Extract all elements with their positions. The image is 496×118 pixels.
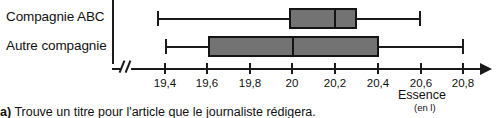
- axis-tick: [420, 63, 422, 74]
- horizontal-axis-line: [131, 68, 483, 70]
- axis-tick-label: 20,4: [367, 77, 389, 89]
- axis-tick: [334, 63, 336, 74]
- median-line: [292, 36, 294, 57]
- axis-tick: [462, 63, 464, 74]
- axis-break-slash-2: [125, 60, 132, 73]
- axis-title: Essence: [398, 89, 446, 102]
- category-label-compagnie-abc: Compagnie ABC: [6, 10, 108, 24]
- whisker-line-upper: [357, 18, 420, 20]
- median-line: [334, 8, 336, 29]
- caption-text: Trouve un titre pour l'article que le jo…: [14, 105, 315, 118]
- axis-tick: [164, 63, 166, 74]
- whisker-line-lower: [166, 46, 208, 48]
- boxplot-figure: Compagnie ABC Autre compagnie 19,4 19,6 …: [0, 0, 496, 118]
- caption-marker: a): [0, 105, 11, 118]
- vertical-axis-line: [112, 0, 114, 64]
- whisker-cap-max: [419, 11, 421, 26]
- axis-tick: [206, 63, 208, 74]
- axis-units-label: (en l): [414, 103, 436, 113]
- whisker-line-lower: [158, 18, 289, 20]
- axis-tick: [291, 63, 293, 74]
- whisker-line-upper: [379, 46, 463, 48]
- caption: a) Trouve un titre pour l'article que le…: [0, 106, 316, 118]
- axis-arrow-icon: [480, 63, 492, 75]
- whisker-cap-max: [462, 39, 464, 54]
- axis-tick: [249, 63, 251, 74]
- box-iqr: [289, 8, 357, 29]
- axis-tick-label: 19,8: [239, 77, 261, 89]
- axis-tick-label: 19,4: [154, 77, 176, 89]
- axis-tick-label: 20,2: [324, 77, 346, 89]
- category-label-autre-compagnie: Autre compagnie: [6, 39, 108, 53]
- axis-tick-label: 19,6: [196, 77, 218, 89]
- axis-tick: [377, 63, 379, 74]
- axis-tick-label: 20: [286, 77, 299, 89]
- axis-tick-label: 20,8: [452, 77, 474, 89]
